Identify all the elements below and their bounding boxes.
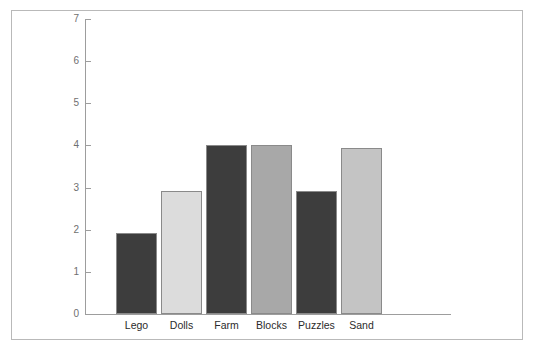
- y-tick-mark: [85, 314, 91, 315]
- chart-page: 01234567 LegoDollsFarmBlocksPuzzlesSand: [0, 0, 534, 354]
- bar-farm[interactable]: [206, 145, 247, 314]
- x-axis-line: [85, 314, 451, 315]
- bar-group: [12, 11, 522, 314]
- clipped-text-row: [0, 0, 534, 7]
- bar-lego[interactable]: [116, 233, 157, 314]
- plot-area: 01234567 LegoDollsFarmBlocksPuzzlesSand: [12, 11, 522, 339]
- bar-blocks[interactable]: [251, 145, 292, 314]
- x-label-farm: Farm: [206, 319, 247, 331]
- bar-dolls[interactable]: [161, 191, 202, 314]
- x-label-blocks: Blocks: [251, 319, 292, 331]
- x-label-puzzles: Puzzles: [296, 319, 337, 331]
- bar-sand[interactable]: [341, 148, 382, 314]
- x-label-sand: Sand: [341, 319, 382, 331]
- x-label-dolls: Dolls: [161, 319, 202, 331]
- bar-puzzles[interactable]: [296, 191, 337, 314]
- x-label-lego: Lego: [116, 319, 157, 331]
- chart-frame: 01234567 LegoDollsFarmBlocksPuzzlesSand: [11, 10, 523, 340]
